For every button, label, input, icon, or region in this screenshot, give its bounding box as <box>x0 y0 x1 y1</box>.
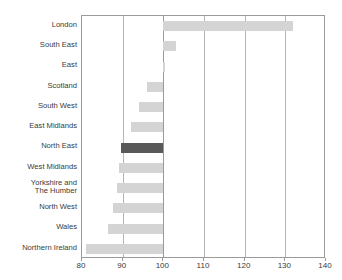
y-axis-label: South West <box>0 96 77 116</box>
bar-row <box>82 198 324 218</box>
y-axis-label: South East <box>0 35 77 55</box>
bar-row <box>82 138 324 158</box>
bar-row <box>82 57 324 77</box>
bar-row <box>82 239 324 259</box>
bar-scotland <box>147 82 163 92</box>
bar-northern-ireland <box>86 244 163 254</box>
y-axis-label: Scotland <box>0 76 77 96</box>
x-axis-tick-label: 100 <box>156 261 169 270</box>
y-axis-label: North West <box>0 197 77 217</box>
y-axis-label: London <box>0 15 77 35</box>
bar-row <box>82 117 324 137</box>
bar-east <box>163 62 164 72</box>
x-axis-tick-label: 140 <box>318 261 331 270</box>
bar-south-east <box>163 41 175 51</box>
y-axis-label: Yorkshire and The Humber <box>0 177 77 197</box>
bar-chart: LondonSouth EastEastScotlandSouth WestEa… <box>0 0 342 280</box>
y-axis-category-labels: LondonSouth EastEastScotlandSouth WestEa… <box>0 15 77 258</box>
y-axis-label: Northern Ireland <box>0 238 77 258</box>
bar-row <box>82 77 324 97</box>
plot-area <box>81 15 325 258</box>
bar-row <box>82 16 324 36</box>
bar-london <box>163 21 293 31</box>
bar-wales <box>108 224 163 234</box>
bar-yorkshire-and-the-humber <box>117 183 164 193</box>
y-axis-label: East Midlands <box>0 116 77 136</box>
bar-north-west <box>113 203 164 213</box>
bar-north-east <box>121 143 164 153</box>
y-axis-label: West Midlands <box>0 157 77 177</box>
x-axis-tick-label: 90 <box>117 261 126 270</box>
bar-west-midlands <box>119 163 164 173</box>
x-axis-tick-labels: 8090100110120130140 <box>0 261 342 275</box>
bar-row <box>82 178 324 198</box>
x-axis-tick-label: 120 <box>237 261 250 270</box>
x-axis-tick-label: 130 <box>278 261 291 270</box>
bar-south-west <box>139 102 163 112</box>
bar-row <box>82 97 324 117</box>
bar-row <box>82 158 324 178</box>
y-axis-label: North East <box>0 137 77 157</box>
y-axis-label: Wales <box>0 218 77 238</box>
bar-row <box>82 36 324 56</box>
bars-layer <box>82 16 324 257</box>
bar-row <box>82 219 324 239</box>
x-axis-tick-label: 110 <box>197 261 210 270</box>
bar-east-midlands <box>131 122 164 132</box>
x-axis-tick-label: 80 <box>77 261 86 270</box>
y-axis-label: East <box>0 56 77 76</box>
